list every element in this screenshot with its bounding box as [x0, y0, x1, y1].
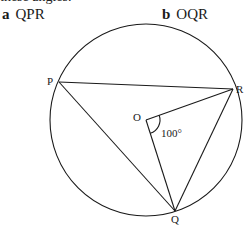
- segment-PR: [59, 82, 233, 89]
- point-label-O: O: [133, 111, 141, 123]
- point-label-Q: Q: [171, 213, 179, 225]
- segment-PQ: [59, 82, 175, 211]
- point-label-P: P: [47, 75, 53, 87]
- circle-geometry-diagram: P R Q O 100°: [0, 0, 245, 225]
- segment-RQ: [175, 89, 233, 211]
- angle-value-label: 100°: [161, 127, 182, 139]
- point-label-R: R: [236, 83, 244, 95]
